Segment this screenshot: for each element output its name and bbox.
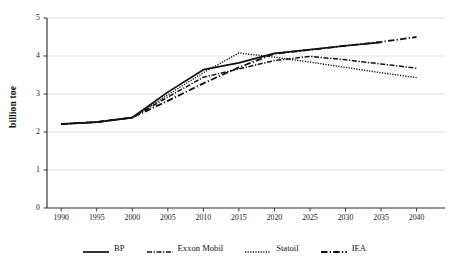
series-line-exxon-mobil [61,56,416,124]
legend-item-exxon-mobil[interactable]: Exxon Mobil [147,243,224,253]
x-tick-label: 2015 [222,214,256,222]
legend-swatch-icon [83,243,109,253]
y-tick-label: 2 [26,128,40,136]
x-tick-label: 1990 [44,214,78,222]
x-tick-label: 2030 [329,214,363,222]
legend-label: IEA [352,243,366,253]
series-line-bp [61,42,381,124]
legend-label: Exxon Mobil [178,243,224,253]
x-tick-label: 2040 [400,214,434,222]
x-tick-label: 2035 [364,214,398,222]
x-tick-label: 2020 [257,214,291,222]
legend-swatch-icon [321,243,347,253]
y-tick-label: 4 [26,52,40,60]
legend-label: BP [114,243,125,253]
y-tick-label: 3 [26,90,40,98]
y-tick-label: 5 [26,14,40,22]
legend-item-statoil[interactable]: Statoil [245,243,298,253]
legend-item-bp[interactable]: BP [83,243,125,253]
y-tick-label: 0 [26,204,40,212]
chart-container: billion toe 012345 199019952000200520102… [0,0,449,266]
chart-legend: BPExxon MobilStatoilIEA [0,236,449,260]
legend-item-iea[interactable]: IEA [321,243,366,253]
x-tick-label: 2010 [186,214,220,222]
legend-swatch-icon [147,243,173,253]
legend-label: Statoil [276,243,298,253]
legend-swatch-icon [245,243,271,253]
x-tick-label: 2005 [151,214,185,222]
x-tick-label: 1995 [80,214,114,222]
y-tick-label: 1 [26,166,40,174]
series-line-iea [61,37,416,124]
x-tick-label: 2000 [115,214,149,222]
plot-area [0,0,449,266]
x-tick-label: 2025 [293,214,327,222]
